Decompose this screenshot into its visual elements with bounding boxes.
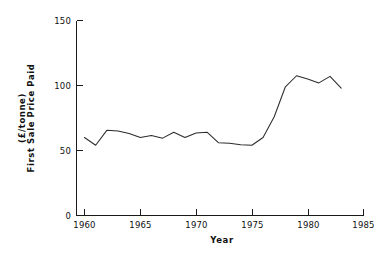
x-tick-label-1960: 1960 [73,220,95,230]
x-tick-marks [85,209,364,216]
x-tick-label-1975: 1975 [241,220,263,230]
x-tick-label-1985: 1985 [352,220,374,230]
y-axis-title-unit: (£/tonne) [17,93,27,143]
y-axis-title-main: First Sale Price Paid [26,64,36,173]
x-tick-label-1980: 1980 [297,220,319,230]
series-line-first-sale-price-paid [85,76,342,146]
y-tick-label-50: 50 [60,146,71,156]
chart-figure: 150 100 50 0 1960 1965 1970 1975 1980 19… [0,0,389,255]
y-tick-label-150: 150 [54,16,71,26]
line-chart: 150 100 50 0 1960 1965 1970 1975 1980 19… [0,0,389,255]
y-tick-label-100: 100 [54,81,71,91]
y-tick-marks [77,21,83,216]
x-axis-title: Year [209,235,234,245]
x-tick-label-1965: 1965 [129,220,151,230]
x-tick-label-1970: 1970 [185,220,207,230]
y-tick-label-0: 0 [65,211,71,221]
